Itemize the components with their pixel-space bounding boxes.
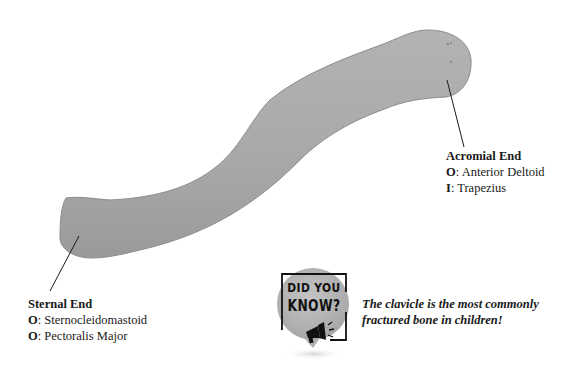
sternal-muscle-2: O: Pectoralis Major <box>28 328 147 344</box>
did-you-know-badge: DID YOU KNOW? <box>272 266 356 362</box>
fact-line-2: fractured bone in children! <box>362 312 539 328</box>
sternal-end-label: Sternal End O: Sternocleidomastoid O: Pe… <box>28 296 147 344</box>
fact-line-1: The clavicle is the most commonly <box>362 296 539 312</box>
sternal-muscle-1: O: Sternocleidomastoid <box>28 312 147 328</box>
acromial-muscle-1: O: Anterior Deltoid <box>446 164 545 180</box>
sternal-end-title: Sternal End <box>28 296 147 312</box>
acromial-muscle-2: I: Trapezius <box>446 180 545 196</box>
acromial-end-label: Acromial End O: Anterior Deltoid I: Trap… <box>446 148 545 196</box>
clavicle-shape <box>60 30 471 258</box>
badge-line1: DID YOU <box>280 280 349 295</box>
fact-callout-text: The clavicle is the most commonly fractu… <box>362 296 539 328</box>
badge-line2: KNOW? <box>280 297 349 315</box>
acromial-end-title: Acromial End <box>446 148 545 164</box>
